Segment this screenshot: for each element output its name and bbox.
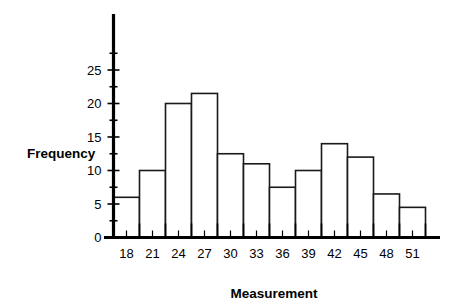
x-tick-label: 42 (327, 246, 341, 261)
x-tick-label: 21 (145, 246, 159, 261)
x-axis-title: Measurement (230, 286, 318, 301)
x-tick-label: 30 (223, 246, 237, 261)
x-tick-label: 45 (353, 246, 367, 261)
x-tick-label: 48 (379, 246, 393, 261)
histogram-bar (270, 187, 296, 237)
y-tick-label: 10 (87, 163, 101, 178)
x-tick-label: 18 (119, 246, 133, 261)
histogram-chart: 0510152025 182124273033363942454851 Freq… (0, 0, 461, 308)
histogram-bar (192, 93, 218, 237)
histogram-bar (218, 154, 244, 238)
y-tick-label: 5 (94, 197, 101, 212)
histogram-bar (348, 157, 374, 237)
y-tick-label: 15 (87, 130, 101, 145)
x-tick-label: 24 (171, 246, 185, 261)
y-axis-title: Frequency (27, 146, 96, 161)
histogram-bar (244, 164, 270, 238)
chart-canvas: 0510152025 182124273033363942454851 Freq… (0, 0, 461, 308)
x-tick-label: 39 (301, 246, 315, 261)
y-tick-label: 20 (87, 96, 101, 111)
x-tick-label: 36 (275, 246, 289, 261)
y-tick-label: 0 (94, 230, 101, 245)
x-tick-label: 51 (405, 246, 419, 261)
x-tick-label: 33 (249, 246, 263, 261)
x-tick-label: 27 (197, 246, 211, 261)
histogram-bar (322, 144, 348, 238)
histogram-bar (140, 171, 166, 238)
y-tick-label: 25 (87, 63, 101, 78)
histogram-bar (296, 171, 322, 238)
histogram-bar (166, 104, 192, 238)
